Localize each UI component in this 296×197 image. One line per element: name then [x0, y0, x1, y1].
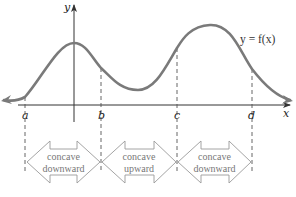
curve-label: y = f(x)	[240, 33, 275, 46]
interval-label-line2: downward	[42, 163, 84, 174]
point-label-a: a	[22, 109, 29, 122]
interval-arrow-c-d: concave downward	[178, 141, 251, 183]
concavity-diagram: x y y = f(x) a b c d concave downward co…	[0, 0, 296, 197]
interval-label-line2: upward	[124, 163, 154, 174]
interval-label-line1: concave	[198, 151, 231, 162]
y-axis-label: y	[63, 1, 71, 14]
interval-label-line1: concave	[123, 151, 156, 162]
interval-arrow-a-b: concave downward	[27, 141, 100, 183]
point-label-b: b	[98, 109, 105, 122]
point-label-d: d	[248, 109, 255, 122]
interval-arrow-b-c: concave upward	[102, 141, 176, 183]
interval-label-line2: downward	[193, 163, 235, 174]
point-label-c: c	[174, 109, 180, 122]
x-axis-label: x	[283, 107, 290, 120]
interval-label-line1: concave	[47, 151, 80, 162]
